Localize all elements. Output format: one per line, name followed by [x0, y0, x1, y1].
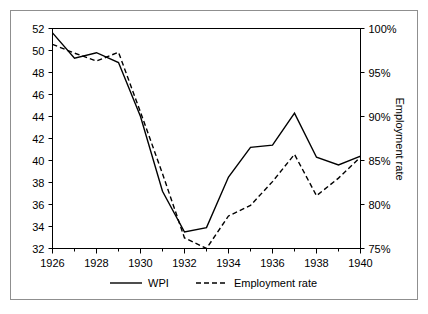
bottom-tick-label: 1940 — [348, 257, 372, 269]
series-lines — [53, 33, 361, 249]
right-tick-label: 90% — [369, 111, 391, 123]
left-tick-label: 32 — [32, 243, 44, 255]
bottom-tick-label: 1930 — [128, 257, 152, 269]
bottom-axis-tick-labels: 19261928193019321934193619381940 — [40, 257, 372, 269]
left-tick-label: 40 — [32, 155, 44, 167]
left-tick-label: 38 — [32, 177, 44, 189]
left-tick-label: 52 — [32, 23, 44, 35]
series-line-wpi — [53, 33, 361, 232]
left-tick-label: 42 — [32, 133, 44, 145]
right-tick-label: 75% — [369, 243, 391, 255]
bottom-tick-label: 1934 — [216, 257, 240, 269]
right-tick-label: 85% — [369, 155, 391, 167]
right-tick-label: 95% — [369, 67, 391, 79]
bottom-tick-label: 1932 — [172, 257, 196, 269]
bottom-tick-label: 1926 — [40, 257, 64, 269]
bottom-tick-label: 1928 — [84, 257, 108, 269]
left-tick-label: 44 — [32, 111, 44, 123]
left-axis-tick-labels: 3234363840424446485052 — [32, 23, 44, 255]
legend-label-wpi: WPI — [148, 277, 169, 289]
right-axis-tick-labels: 75%80%85%90%95%100% — [369, 23, 397, 255]
chart-figure: 3234363840424446485052 75%80%85%90%95%10… — [0, 0, 428, 314]
left-tick-label: 48 — [32, 67, 44, 79]
right-tick-label: 80% — [369, 199, 391, 211]
right-tick-label: 100% — [369, 23, 397, 35]
plot-frame — [53, 29, 361, 249]
legend-label-employment-rate: Employment rate — [234, 277, 317, 289]
chart-legend: WPI Employment rate — [110, 277, 317, 289]
bottom-tick-label: 1938 — [304, 257, 328, 269]
chart-canvas: 3234363840424446485052 75%80%85%90%95%10… — [0, 0, 428, 314]
left-tick-label: 34 — [32, 221, 44, 233]
right-axis-title: Employment rate — [394, 97, 406, 180]
left-axis-ticks — [49, 29, 53, 249]
right-axis-ticks — [361, 29, 365, 249]
bottom-tick-label: 1936 — [260, 257, 284, 269]
left-tick-label: 50 — [32, 45, 44, 57]
series-line-employment-rate — [53, 44, 361, 248]
left-tick-label: 36 — [32, 199, 44, 211]
left-tick-label: 46 — [32, 89, 44, 101]
